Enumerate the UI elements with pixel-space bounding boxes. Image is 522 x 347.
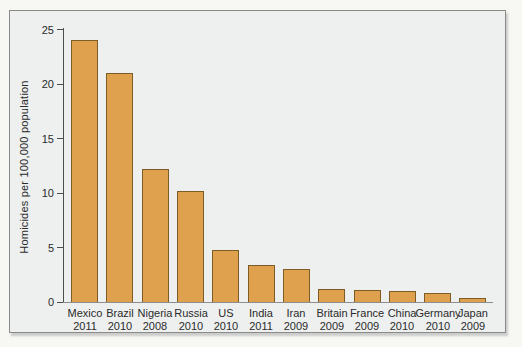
y-tick-mark bbox=[57, 29, 63, 30]
country-name: Japan bbox=[443, 307, 503, 320]
bar-us bbox=[212, 250, 239, 302]
y-tick-label: 0 bbox=[28, 297, 54, 308]
bar-india bbox=[248, 265, 275, 302]
y-tick-label: 20 bbox=[28, 79, 54, 90]
data-year: 2009 bbox=[443, 320, 503, 333]
bar-britain bbox=[318, 289, 345, 302]
bar-mexico bbox=[71, 40, 98, 302]
y-tick-label: 5 bbox=[28, 243, 54, 254]
y-tick-mark bbox=[57, 193, 63, 194]
bar-russia bbox=[177, 191, 204, 302]
chart-frame: Homicides per 100,000 population 0510152… bbox=[9, 10, 506, 333]
y-tick-mark bbox=[57, 302, 63, 303]
y-tick-label: 10 bbox=[28, 188, 54, 199]
bar-iran bbox=[283, 269, 310, 302]
bar-nigeria bbox=[142, 169, 169, 302]
page: Homicides per 100,000 population 0510152… bbox=[0, 0, 522, 347]
y-tick-mark bbox=[57, 247, 63, 248]
y-tick-label: 25 bbox=[28, 25, 54, 36]
bar-china bbox=[389, 291, 416, 302]
y-tick-mark bbox=[57, 138, 63, 139]
bar-france bbox=[354, 290, 381, 302]
y-tick-mark bbox=[57, 84, 63, 85]
x-axis-line bbox=[63, 302, 493, 303]
bar-japan bbox=[459, 298, 486, 302]
y-tick-label: 15 bbox=[28, 134, 54, 145]
bar-brazil bbox=[106, 73, 133, 302]
bar-germany bbox=[424, 293, 451, 302]
x-label-japan: Japan2009 bbox=[443, 307, 503, 333]
y-axis-line bbox=[63, 28, 64, 303]
